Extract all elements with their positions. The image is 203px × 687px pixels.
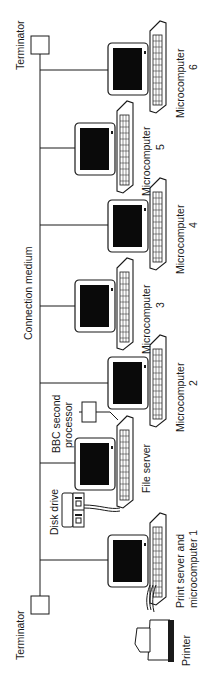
- microcomputer-2: [108, 335, 166, 427]
- mc3-num: 3: [154, 302, 166, 308]
- microcomputer-6: [108, 21, 166, 113]
- print-server-label-2: microcomputer 1: [187, 530, 199, 608]
- file-server-label: File server: [140, 443, 152, 493]
- terminator-bottom-label: Terminator: [14, 610, 26, 660]
- mc2-num: 2: [187, 380, 199, 386]
- microcomputer-5: [75, 101, 133, 193]
- network-diagram: Terminator Terminator Connection medium …: [0, 0, 203, 687]
- disk-drive-label: Disk drive: [48, 489, 60, 535]
- mc4-num: 4: [187, 222, 199, 228]
- microcomputer-4: [108, 178, 166, 270]
- second-processor-label-1: BBC second: [50, 394, 62, 453]
- mc5-label: Microcomputer: [140, 126, 152, 196]
- microcomputer-3: [75, 258, 133, 350]
- print-server-label-1: Print server and: [174, 534, 186, 608]
- printer-label: Printer: [180, 635, 192, 666]
- second-processor-box: [82, 402, 96, 422]
- mc6-label: Microcomputer: [174, 48, 186, 118]
- bus-label: Connection medium: [22, 246, 34, 340]
- mc5-num: 5: [154, 144, 166, 150]
- terminator-top-label: Terminator: [14, 20, 26, 70]
- mc4-label: Microcomputer: [174, 204, 186, 274]
- mc2-label: Microcomputer: [174, 362, 186, 432]
- print-server: [108, 513, 166, 605]
- mc3-label: Microcomputer: [140, 284, 152, 354]
- terminator-top: [31, 36, 49, 54]
- second-processor-label-2: processor: [62, 401, 74, 448]
- disk-drive-icon: [62, 493, 120, 527]
- mc6-num: 6: [187, 64, 199, 70]
- terminator-bottom: [31, 596, 49, 614]
